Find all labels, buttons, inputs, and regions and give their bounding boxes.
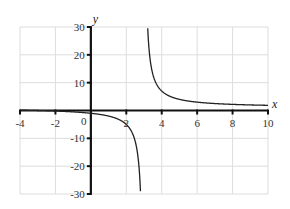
y-tick-label: 10 — [74, 77, 86, 89]
x-tick-label: 4 — [159, 117, 165, 129]
function-plot: -4-22468100-30-20-10102030 x y — [0, 0, 290, 209]
x-tick-label: 6 — [194, 117, 200, 129]
x-tick-label: 2 — [124, 117, 130, 129]
y-tick-label: -30 — [70, 188, 85, 200]
y-tick-label: 30 — [74, 21, 86, 33]
y-axis-label: y — [92, 12, 99, 26]
x-tick-label: -2 — [51, 117, 60, 129]
origin-label: 0 — [81, 115, 87, 127]
x-axis-label: x — [271, 97, 278, 111]
curve-right-branch — [148, 28, 268, 105]
y-tick-label: 20 — [74, 49, 86, 61]
y-tick-label: -10 — [70, 132, 85, 144]
x-tick-label: 10 — [263, 117, 275, 129]
x-tick-label: -4 — [15, 117, 25, 129]
x-tick-label: 8 — [230, 117, 236, 129]
y-tick-label: -20 — [70, 160, 85, 172]
